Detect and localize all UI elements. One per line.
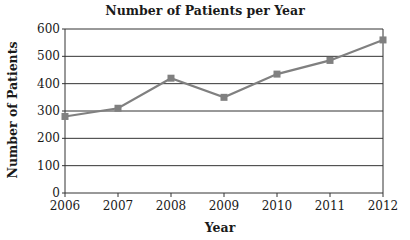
y-tick-label: 100 <box>37 159 60 173</box>
x-tick-label: 2007 <box>103 199 134 213</box>
plot-area: 0100200300400500600200620072008200920102… <box>0 0 410 240</box>
x-tick-label: 2010 <box>262 199 293 213</box>
y-tick-label: 300 <box>37 104 60 118</box>
x-tick-label: 2006 <box>50 199 81 213</box>
y-tick-label: 600 <box>37 22 60 36</box>
data-point-marker <box>115 105 122 112</box>
y-tick-label: 400 <box>37 77 60 91</box>
data-point-marker <box>168 75 175 82</box>
data-point-marker <box>327 57 334 64</box>
data-point-marker <box>221 94 228 101</box>
data-point-marker <box>274 71 281 78</box>
y-tick-label: 0 <box>52 186 60 200</box>
y-tick-label: 500 <box>37 49 60 63</box>
x-tick-label: 2011 <box>315 199 346 213</box>
data-line <box>65 40 383 117</box>
y-tick-label: 200 <box>37 131 60 145</box>
x-tick-label: 2012 <box>368 199 399 213</box>
x-tick-label: 2009 <box>209 199 240 213</box>
data-point-marker <box>62 113 69 120</box>
data-point-marker <box>380 36 387 43</box>
x-tick-label: 2008 <box>156 199 187 213</box>
line-chart: Number of Patients per Year Number of Pa… <box>0 0 410 240</box>
